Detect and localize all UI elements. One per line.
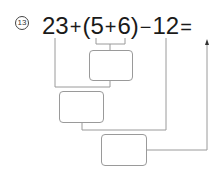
answer-box-3[interactable]: [101, 134, 147, 166]
arrow-up-icon: [205, 39, 209, 45]
answer-box-1[interactable]: [89, 50, 133, 81]
answer-box-2[interactable]: [59, 91, 104, 123]
